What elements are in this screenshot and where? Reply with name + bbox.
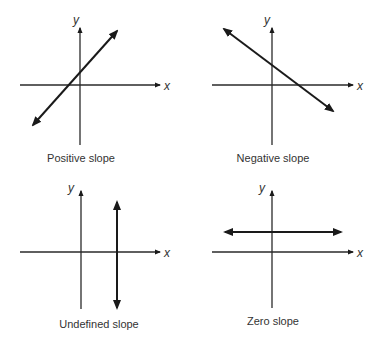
y-axis-label: y xyxy=(263,13,271,27)
x-axis-label: x xyxy=(163,246,171,260)
panel-zero-slope: y x Zero slope xyxy=(212,181,364,327)
x-axis-label: x xyxy=(356,79,364,93)
y-axis-label: y xyxy=(72,13,80,27)
panel-negative-slope: y x Negative slope xyxy=(212,13,364,164)
panel-undefined-slope: y x Undefined slope xyxy=(20,181,171,330)
caption-positive-slope: Positive slope xyxy=(47,152,115,164)
y-axis-label: y xyxy=(67,181,75,195)
y-axis-label: y xyxy=(258,181,266,195)
diagram-canvas: y x Positive slope y x Negative slope y … xyxy=(0,0,381,348)
panel-positive-slope: y x Positive slope xyxy=(20,13,171,164)
negative-slope-line xyxy=(224,29,333,111)
caption-negative-slope: Negative slope xyxy=(237,152,310,164)
x-axis-label: x xyxy=(356,246,364,260)
x-axis-label: x xyxy=(163,79,171,93)
slope-types-diagram: y x Positive slope y x Negative slope y … xyxy=(0,0,381,348)
caption-undefined-slope: Undefined slope xyxy=(59,318,139,330)
caption-zero-slope: Zero slope xyxy=(247,315,299,327)
positive-slope-line xyxy=(33,31,117,125)
